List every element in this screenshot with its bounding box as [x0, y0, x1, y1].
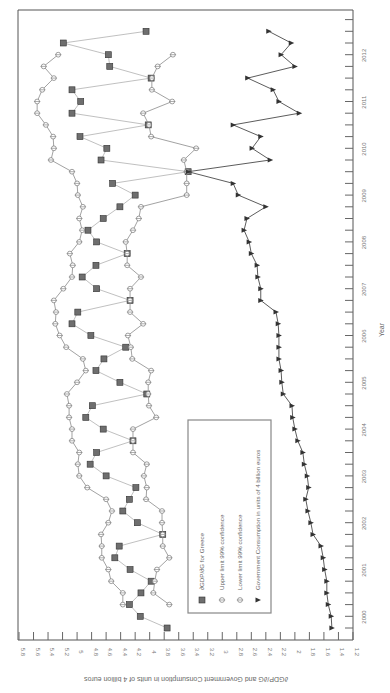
square-marker-icon	[120, 508, 126, 514]
square-marker-icon	[89, 403, 95, 409]
series-layer	[34, 28, 335, 631]
square-marker-icon	[77, 134, 83, 140]
square-marker-icon	[107, 63, 113, 69]
legend-item: Government Consumption in units of 4 bil…	[254, 450, 261, 603]
year-tick-label: 2010	[361, 142, 367, 156]
value-axis-ticks: 5.85.65.45.254.84.64.44.243.83.63.43.232…	[19, 632, 360, 657]
square-marker-icon	[126, 602, 132, 608]
square-marker-icon	[133, 485, 139, 491]
triangle-marker-icon	[245, 76, 251, 81]
value-tick-label: 2	[296, 650, 302, 654]
legend-item: Lower limit 99% confidence	[236, 514, 243, 602]
legend-label: Upper limit 99% confidence	[218, 514, 225, 590]
year-tick-label: 2006	[361, 329, 367, 343]
chart: 5.85.65.45.254.84.64.44.243.83.63.43.232…	[0, 0, 390, 693]
value-tick-label: 3.4	[194, 648, 200, 657]
square-marker-icon	[93, 262, 99, 268]
triangle-marker-icon	[292, 64, 298, 69]
square-marker-icon	[69, 321, 75, 327]
triangle-marker-icon	[263, 204, 269, 209]
year-tick-label: 2005	[361, 376, 367, 390]
value-tick-label: 1.4	[339, 648, 345, 657]
triangle-marker-icon	[258, 134, 264, 139]
value-tick-label: 3	[223, 650, 229, 654]
triangle-marker-icon	[297, 111, 303, 116]
value-tick-label: 4.6	[107, 648, 113, 657]
square-marker-icon	[127, 567, 133, 573]
triangle-marker-icon	[295, 438, 301, 443]
triangle-marker-icon	[281, 392, 287, 397]
square-marker-icon	[87, 461, 93, 467]
square-marker-icon	[100, 426, 106, 432]
square-marker-icon	[104, 145, 110, 151]
square-marker-icon	[132, 192, 138, 198]
value-tick-label: 4.4	[122, 648, 128, 657]
triangle-marker-icon	[268, 158, 274, 163]
square-marker-icon	[94, 286, 100, 292]
square-marker-icon	[94, 239, 100, 245]
square-marker-icon	[138, 590, 144, 596]
square-marker-icon	[60, 40, 66, 46]
value-tick-label: 3.8	[165, 648, 171, 657]
legend-label: ∂GDP/∂G for Greece	[198, 532, 205, 590]
square-marker-icon	[103, 473, 109, 479]
square-marker-icon	[137, 613, 143, 619]
triangle-marker-icon	[236, 193, 242, 198]
year-tick-label: 2011	[361, 95, 367, 109]
value-tick-label: 3.2	[209, 648, 215, 657]
square-marker-icon	[116, 543, 122, 549]
year-tick-label: 2000	[361, 610, 367, 624]
year-axis-ticks: 2000200120022003200420052006200720082009…	[345, 20, 367, 628]
triangle-marker-icon	[249, 251, 255, 256]
value-tick-label: 4.2	[136, 648, 142, 657]
value-tick-label: 5	[78, 650, 84, 654]
series-gdp-greece	[60, 28, 191, 631]
year-tick-label: 2008	[361, 235, 367, 249]
year-axis-title: Year	[378, 322, 385, 337]
year-tick-label: 2001	[361, 563, 367, 577]
square-marker-icon	[117, 204, 123, 210]
square-marker-icon	[69, 110, 75, 116]
square-marker-icon	[69, 87, 75, 93]
value-tick-label: 2.8	[238, 648, 244, 657]
year-tick-label: 2012	[361, 48, 367, 62]
square-marker-icon	[112, 555, 118, 561]
value-axis-title: ∂GDP/∂G and Government Consumption in un…	[84, 675, 288, 683]
square-marker-icon	[164, 625, 170, 631]
triangle-marker-icon	[271, 87, 277, 92]
square-marker-icon	[100, 216, 106, 222]
value-tick-label: 4.8	[93, 648, 99, 657]
square-marker-icon	[79, 274, 85, 280]
triangle-marker-icon	[231, 181, 237, 186]
square-marker-icon	[105, 52, 111, 58]
square-marker-icon	[88, 333, 94, 339]
year-tick-label: 2003	[361, 469, 367, 483]
value-tick-label: 5.2	[64, 648, 70, 657]
legend-label: Government Consumption in units of 4 bil…	[254, 450, 261, 590]
value-tick-label: 5.4	[49, 648, 55, 657]
series-line	[63, 31, 188, 628]
value-tick-label: 2.2	[281, 648, 287, 657]
square-marker-icon	[75, 309, 81, 315]
square-marker-icon	[134, 520, 140, 526]
value-tick-label: 1.8	[310, 648, 316, 657]
triangle-marker-icon	[311, 532, 317, 537]
value-tick-label: 1.6	[325, 648, 331, 657]
year-tick-label: 2009	[361, 188, 367, 202]
year-tick-label: 2002	[361, 516, 367, 530]
square-marker-icon	[199, 597, 205, 603]
square-marker-icon	[117, 379, 123, 385]
triangle-marker-icon	[306, 485, 312, 490]
plot-frame	[18, 10, 353, 640]
value-tick-label: 1.2	[354, 648, 360, 657]
square-marker-icon	[94, 450, 100, 456]
value-tick-label: 5.6	[35, 648, 41, 657]
legend: ∂GDP/∂G for GreeceUpper limit 99% confid…	[188, 420, 271, 613]
value-tick-label: 4	[151, 650, 157, 654]
value-tick-label: 2.6	[252, 648, 258, 657]
value-tick-label: 2.4	[267, 648, 273, 657]
square-marker-icon	[110, 180, 116, 186]
square-marker-icon	[143, 28, 149, 34]
square-marker-icon	[126, 496, 132, 502]
square-marker-icon	[83, 414, 89, 420]
